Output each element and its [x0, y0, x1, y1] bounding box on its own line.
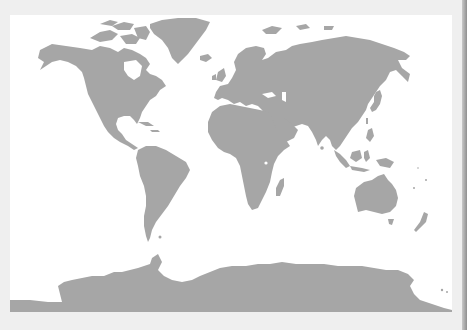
page-edge-shadow: [462, 0, 467, 330]
world-map-shapes: [0, 0, 467, 330]
british-isles: [212, 68, 226, 82]
iceland: [200, 54, 212, 62]
arctic-islands: [90, 20, 150, 44]
scanned-page: [0, 0, 467, 330]
tasmania: [388, 219, 394, 225]
madagascar: [276, 178, 284, 196]
antarctica: [10, 254, 452, 312]
south-america: [136, 146, 190, 242]
new-zealand: [414, 212, 428, 232]
australia: [354, 174, 398, 214]
north-america: [38, 44, 166, 150]
